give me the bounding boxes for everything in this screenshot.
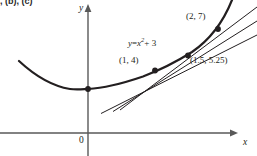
point-label-a: (1, 4) [119, 56, 139, 65]
point-label-b: (1.5, 5.25) [190, 56, 228, 65]
point-marker-a [152, 68, 158, 74]
secant-line-a-to-b [113, 21, 257, 112]
x-axis-label: x [243, 138, 247, 148]
y-axis-label: y [79, 4, 83, 14]
tangent-line-at-point-a [101, 35, 257, 114]
figure-parabola-secant-tangent: , (b), (c) y x 0 y=x2+ 3 (1, 4) (1.5, 5.… [0, 0, 257, 156]
curve-equation-label: y=x2+ 3 [128, 39, 156, 48]
x-axis-arrowhead [230, 129, 238, 136]
y-axis-arrowhead [85, 4, 92, 12]
caption-fragment: , (b), (c) [0, 0, 33, 6]
origin-label: 0 [79, 136, 84, 146]
point-marker-c [215, 26, 221, 32]
point-marker-vertex [85, 86, 91, 92]
secant-line-a-to-c [120, 7, 257, 110]
equation-tail: + 3 [144, 38, 156, 48]
point-label-c: (2, 7) [186, 12, 206, 21]
plot-canvas [0, 0, 257, 156]
